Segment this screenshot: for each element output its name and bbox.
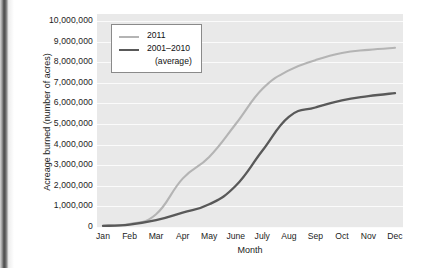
x-axis-title: Month bbox=[97, 245, 403, 255]
legend-swatch-2011 bbox=[119, 33, 139, 42]
legend-swatch-average bbox=[119, 46, 139, 55]
y-axis-tick-label: 1,000,000 bbox=[18, 201, 93, 210]
x-axis-tick-label: Apr bbox=[176, 231, 189, 242]
x-axis-tick-label: June bbox=[226, 231, 245, 242]
chart-legend: 2011 2001–2010 (average) bbox=[111, 24, 202, 73]
y-axis-tick-label: 4,000,000 bbox=[18, 140, 93, 149]
x-axis-tick-label: May bbox=[201, 231, 217, 242]
x-axis-tick-label: Nov bbox=[361, 231, 376, 242]
line-chart-figure: Acreage burned (number of acres) 10,000,… bbox=[0, 0, 424, 268]
y-axis-tick-label: 10,000,000 bbox=[18, 16, 93, 25]
x-axis-tick-label: Feb bbox=[122, 231, 137, 242]
legend-item-2011: 2011 bbox=[119, 30, 192, 42]
legend-item-average: 2001–2010 bbox=[119, 43, 192, 55]
x-axis-tick-label: Oct bbox=[335, 231, 348, 242]
y-axis-tick-label: 9,000,000 bbox=[18, 37, 93, 46]
legend-sublabel-average: (average) bbox=[155, 56, 192, 67]
x-axis-tick-label: Dec bbox=[387, 231, 402, 242]
x-axis-tick-label: Jan bbox=[96, 231, 110, 242]
y-axis-tick-label: 2,000,000 bbox=[18, 181, 93, 190]
x-axis-tick-label: Mar bbox=[149, 231, 164, 242]
y-axis-tick-label: 7,000,000 bbox=[18, 78, 93, 87]
legend-label-average: 2001–2010 bbox=[147, 43, 190, 54]
series-line bbox=[103, 93, 395, 226]
x-axis-tick-label: Aug bbox=[281, 231, 296, 242]
y-axis-tick-label: 0 bbox=[18, 222, 93, 231]
y-axis-tick-label: 5,000,000 bbox=[18, 119, 93, 128]
y-axis-tick-label: 8,000,000 bbox=[18, 57, 93, 66]
series-line bbox=[103, 48, 395, 226]
x-axis-tick-labels: JanFebMarAprMayJuneJulyAugSepOctNovDec bbox=[97, 231, 403, 244]
x-axis-tick-label: Sep bbox=[308, 231, 323, 242]
y-axis-tick-label: 3,000,000 bbox=[18, 160, 93, 169]
legend-label-2011: 2011 bbox=[147, 30, 165, 41]
y-axis-tick-labels: 10,000,0009,000,0008,000,0007,000,0006,0… bbox=[18, 14, 93, 228]
x-axis-tick-label: July bbox=[255, 231, 270, 242]
y-axis-tick-label: 6,000,000 bbox=[18, 98, 93, 107]
